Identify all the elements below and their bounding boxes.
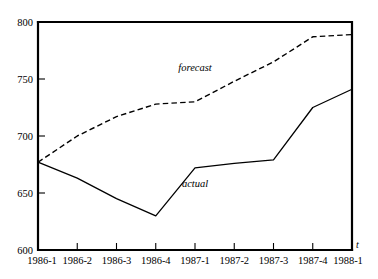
x-tick-label: 1986-4 xyxy=(141,255,171,266)
series-line-forecast xyxy=(38,35,352,163)
x-tick-label: 1987-1 xyxy=(180,255,210,266)
line-chart: 600650700750800 1986-11986-21986-31986-4… xyxy=(0,0,378,279)
y-tick-label: 600 xyxy=(17,245,33,256)
y-tick-label: 700 xyxy=(17,131,33,142)
y-tick-label: 650 xyxy=(17,188,33,199)
y-axis-tick-labels: 600650700750800 xyxy=(17,17,33,256)
x-tick-label: 1988-1 xyxy=(333,255,363,266)
x-tick-label: 1986-2 xyxy=(62,255,92,266)
x-tick-label: 1986-1 xyxy=(27,255,57,266)
chart-figure: 600650700750800 1986-11986-21986-31986-4… xyxy=(0,0,378,279)
axis-frame-top-right xyxy=(38,22,352,250)
x-tick-label: 1987-3 xyxy=(259,255,289,266)
series-label-forecast: forecast xyxy=(178,62,213,73)
series-annotations: actualforecast xyxy=(178,62,213,189)
x-tick-label: 1986-3 xyxy=(102,255,132,266)
y-tick-label: 750 xyxy=(17,74,33,85)
y-tick-label: 800 xyxy=(17,17,33,28)
x-axis-label: t xyxy=(356,239,359,250)
x-axis-tick-labels: 1986-11986-21986-31986-41987-11987-21987… xyxy=(27,255,363,266)
series-line-actual xyxy=(38,89,352,216)
series-label-actual: actual xyxy=(182,178,208,189)
x-tick-label: 1987-2 xyxy=(219,255,249,266)
chart-axes xyxy=(38,22,352,250)
x-tick-label: 1987-4 xyxy=(298,255,328,266)
axis-frame-left-bottom xyxy=(38,22,352,250)
